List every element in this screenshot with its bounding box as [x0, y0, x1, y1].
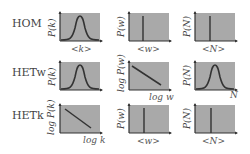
row-label-hetk: HETk — [12, 109, 44, 122]
x-axis-label: <N> — [202, 136, 225, 146]
axes-icon — [127, 11, 173, 43]
row-label-hetw: HETw — [12, 66, 46, 79]
y-axis-label: P(k) — [47, 67, 57, 86]
axes-icon — [127, 60, 173, 92]
x-axis-label: <w> — [137, 44, 160, 54]
y-axis-label: log P(w) — [116, 54, 126, 92]
x-axis-label: <k> — [71, 44, 92, 54]
x-axis-label: log w — [149, 92, 174, 102]
axes-icon — [127, 103, 173, 135]
y-axis-label: P(N) — [182, 16, 192, 37]
x-axis-label: log k — [83, 135, 105, 145]
axes-icon — [193, 103, 239, 135]
y-axis-label: P(N) — [182, 108, 192, 129]
x-axis-label: <N> — [202, 44, 225, 54]
x-axis-label: <w> — [137, 136, 160, 146]
y-axis-label: P(N) — [182, 65, 192, 86]
row-label-hom: HOM — [12, 17, 42, 30]
x-axis-label: N — [230, 90, 238, 100]
y-axis-label: P(w) — [116, 108, 126, 129]
axes-icon — [193, 11, 239, 43]
axes-icon — [58, 11, 104, 43]
axes-icon — [193, 60, 239, 92]
axes-icon — [58, 103, 104, 135]
axes-icon — [58, 60, 104, 92]
y-axis-label: P(w) — [116, 16, 126, 37]
y-axis-label: log P(k) — [46, 100, 56, 135]
y-axis-label: P(k) — [47, 18, 57, 37]
